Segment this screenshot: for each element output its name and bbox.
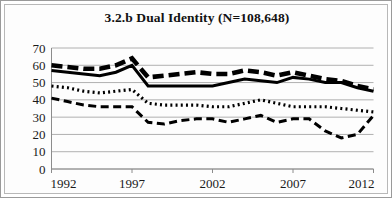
x-tick-label: 2007 [280, 176, 307, 191]
chart-figure: 3.2.b Dual Identity (N=108,648) 01020304… [0, 0, 392, 198]
x-axis-tick-marks [52, 169, 374, 173]
y-tick-label: 70 [33, 41, 46, 56]
x-tick-label: 1997 [119, 176, 146, 191]
y-tick-label: 50 [33, 75, 46, 90]
x-tick-label: 1992 [51, 176, 77, 191]
axes-group [52, 48, 374, 169]
y-tick-label: 30 [33, 110, 46, 125]
y-tick-label: 40 [33, 92, 46, 107]
series-line-dotted-series [52, 86, 374, 112]
series-line-thin-dashed-series [52, 98, 374, 138]
y-tick-label: 60 [33, 58, 46, 73]
x-tick-label: 2002 [200, 176, 226, 191]
y-tick-label: 0 [39, 162, 46, 177]
line-chart-plot: 010203040506070 19921997200220072012 [1, 1, 392, 198]
y-axis-tick-labels: 010203040506070 [33, 41, 46, 177]
y-tick-label: 10 [33, 144, 46, 159]
y-tick-label: 20 [33, 127, 46, 142]
x-tick-label: 2012 [349, 176, 375, 191]
gridlines-group [52, 48, 374, 169]
data-series-group [52, 58, 374, 138]
x-axis-tick-labels: 19921997200220072012 [51, 176, 375, 191]
